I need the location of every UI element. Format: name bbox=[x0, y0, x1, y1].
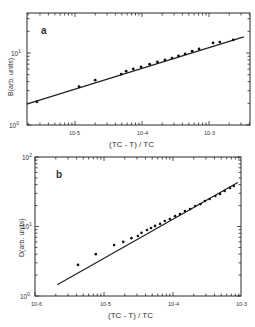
data-point bbox=[132, 68, 135, 71]
data-point bbox=[232, 39, 235, 42]
panel-b-x-ticks bbox=[35, 157, 239, 296]
panel-b-xtick-label-2: 10-4 bbox=[168, 301, 179, 307]
panel-a-label: a bbox=[41, 25, 47, 36]
data-point bbox=[184, 53, 187, 56]
data-point bbox=[214, 195, 217, 198]
data-point bbox=[184, 210, 187, 213]
data-point bbox=[171, 57, 174, 60]
panel-b-xtick-label-0: 10-6 bbox=[31, 301, 42, 307]
data-point bbox=[150, 227, 153, 230]
data-point bbox=[164, 59, 167, 62]
panel-a-xtick-label-1: 10-5 bbox=[69, 130, 80, 136]
panel-a-xtick-label-3: 10-3 bbox=[204, 130, 215, 136]
data-point bbox=[204, 200, 207, 203]
panel-a-y-ticks bbox=[27, 19, 250, 125]
data-point bbox=[169, 218, 172, 221]
data-point bbox=[189, 208, 192, 211]
panel-b-ytick-label-0: 100 bbox=[20, 291, 30, 300]
panel-a-ytick-label-1: 101 bbox=[11, 48, 21, 57]
figure: a 100 101 B(arb. units) 10-5 10-4 10-3 (… bbox=[0, 0, 255, 327]
data-point bbox=[148, 63, 151, 66]
panel-b-ytick-label-2: 102 bbox=[22, 152, 32, 161]
panel-a: a 100 101 B(arb. units) 10-5 10-4 10-3 (… bbox=[7, 13, 250, 149]
data-point bbox=[212, 42, 215, 45]
data-point bbox=[154, 225, 157, 228]
panel-a-ylabel: B(arb. units) bbox=[7, 58, 15, 96]
data-point bbox=[229, 187, 232, 190]
panel-b-label: b bbox=[56, 169, 62, 180]
data-point bbox=[125, 70, 128, 73]
data-point bbox=[146, 229, 149, 232]
panel-b-xtick-label-3: 10-3 bbox=[236, 301, 247, 307]
data-point bbox=[36, 100, 39, 103]
panel-b-xlabel: (TC - T) / TC bbox=[108, 311, 153, 320]
data-point bbox=[232, 185, 235, 188]
data-point bbox=[140, 232, 143, 235]
panel-a-ytick-label-0: 100 bbox=[9, 120, 19, 129]
data-point bbox=[77, 264, 80, 267]
data-point bbox=[122, 241, 125, 244]
panel-a-xlabel: (TC - T) / TC bbox=[109, 140, 154, 149]
panel-b-y-ticks bbox=[35, 157, 241, 296]
data-point bbox=[78, 85, 81, 88]
data-point bbox=[219, 193, 222, 196]
data-point bbox=[137, 235, 140, 238]
data-point bbox=[174, 215, 177, 218]
data-point bbox=[198, 48, 201, 51]
data-point bbox=[191, 50, 194, 53]
panel-b-xtick-label-1: 10-5 bbox=[100, 301, 111, 307]
panel-b-fit-line bbox=[57, 182, 238, 284]
data-point bbox=[156, 61, 159, 64]
panel-b-ylabel: D(arb. units) bbox=[18, 218, 26, 257]
data-point bbox=[194, 205, 197, 208]
panel-b-frame bbox=[35, 157, 241, 296]
data-point bbox=[218, 41, 221, 44]
data-point bbox=[163, 220, 166, 223]
data-point bbox=[94, 253, 97, 256]
data-point bbox=[113, 244, 116, 247]
data-point bbox=[120, 73, 123, 76]
panel-b: b 100 101 102 D(arb. units) 10-6 10-5 10… bbox=[18, 152, 247, 320]
data-point bbox=[199, 203, 202, 206]
data-point bbox=[177, 55, 180, 58]
panel-a-xtick-label-2: 10-4 bbox=[137, 130, 148, 136]
data-point bbox=[159, 223, 162, 226]
data-point bbox=[179, 213, 182, 216]
data-point bbox=[223, 190, 226, 193]
data-point bbox=[130, 237, 133, 240]
panel-a-fit-line bbox=[27, 37, 244, 104]
data-point bbox=[208, 198, 211, 201]
data-point bbox=[94, 79, 97, 82]
data-point bbox=[140, 66, 143, 69]
